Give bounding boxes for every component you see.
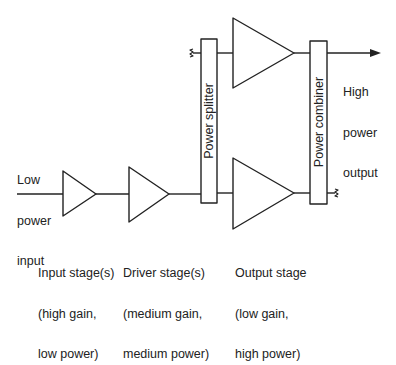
driver-stage-caption: Driver stage(s) (medium gain, medium pow…	[123, 240, 209, 365]
output-label: High power output	[343, 59, 378, 194]
caption-line: (medium gain,	[123, 308, 209, 322]
input-label-line: power	[17, 215, 51, 229]
caption-line: high power)	[235, 348, 307, 362]
caption-line: (low gain,	[235, 308, 307, 322]
output-arrow-icon	[370, 49, 381, 57]
caption-line: medium power)	[123, 348, 209, 362]
caption-line: (high gain,	[38, 308, 114, 322]
power-combiner-label: Power combiner	[312, 77, 326, 167]
input-stage-caption: Input stage(s) (high gain, low power)	[38, 240, 114, 365]
caption-line: low power)	[38, 348, 114, 362]
caption-line: Driver stage(s)	[123, 267, 209, 281]
input-label-line: Low	[17, 174, 51, 188]
output-label-line: output	[343, 167, 378, 181]
input-stage-amplifier	[63, 171, 96, 216]
driver-stage-amplifier	[129, 167, 169, 222]
splitter-termination-resistor-icon	[190, 49, 193, 57]
caption-line: Output stage	[235, 267, 307, 281]
output-label-line: High	[343, 86, 378, 100]
power-splitter-label: Power splitter	[202, 83, 216, 159]
output-stage-amplifier-bottom	[233, 158, 294, 229]
output-stage-amplifier-top	[233, 18, 294, 88]
output-label-line: power	[343, 127, 378, 141]
output-stage-caption: Output stage (low gain, high power)	[235, 240, 307, 365]
caption-line: Input stage(s)	[38, 267, 114, 281]
combiner-termination-resistor-icon	[335, 189, 338, 197]
